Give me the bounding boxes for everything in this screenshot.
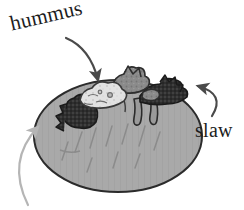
label-slaw: slaw: [195, 120, 233, 140]
illustration-figure: hummus slaw: [0, 0, 244, 210]
slaw-arrow: [198, 86, 217, 116]
hummus-arrow: [66, 38, 98, 80]
potato-illustration: [0, 0, 244, 210]
